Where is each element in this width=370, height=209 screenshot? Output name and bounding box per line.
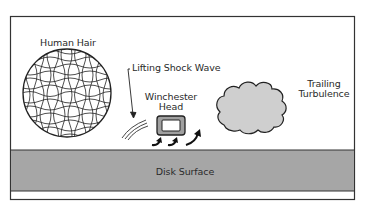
turbulence-cloud-icon bbox=[217, 82, 286, 134]
winchester-head-label-line2: Head bbox=[143, 102, 199, 112]
lifting-shock-wave-label: Lifting Shock Wave bbox=[132, 63, 220, 73]
winchester-head-icon bbox=[157, 116, 185, 135]
trailing-turbulence-label-line2: Turbulence bbox=[288, 89, 360, 99]
human-hair-label: Human Hair bbox=[30, 38, 106, 48]
disk-surface-label: Disk Surface bbox=[140, 167, 230, 177]
